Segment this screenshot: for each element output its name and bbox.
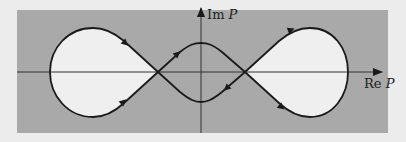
imag-axis-label: Im P	[207, 7, 238, 22]
real-axis-label: Re P	[364, 76, 395, 91]
contour-diagram: Im P Re P	[0, 0, 406, 142]
